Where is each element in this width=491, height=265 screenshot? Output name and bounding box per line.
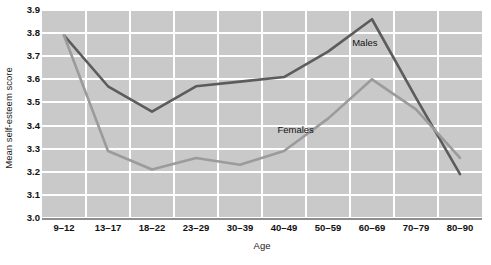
y-axis-tick-label: 3.4 [16,121,40,131]
x-axis-tick-labels: 9–1213–1718–2223–2930–3940–4950–5960–697… [42,222,482,236]
y-axis-tick-labels: 3.03.13.23.33.43.53.63.73.83.9 [16,10,40,218]
x-axis-tick-label: 30–39 [227,222,253,234]
y-axis-tick-label: 3.2 [16,167,40,177]
y-axis-tick-label: 3.8 [16,28,40,38]
y-axis-tick-label: 3.3 [16,144,40,154]
y-axis-tick-label: 3.5 [16,97,40,107]
x-axis-tick-label: 60–69 [359,222,385,234]
x-axis-tick-label: 13–17 [95,222,121,234]
plot-area: MalesFemales [42,10,482,218]
plot-lines [42,10,482,218]
y-axis-tick-label: 3.7 [16,51,40,61]
x-axis-tick-label: 23–29 [183,222,209,234]
x-axis-tick-label: 80–90 [447,222,473,234]
x-axis-tick-label: 9–12 [53,222,74,234]
series-line-males [64,19,460,174]
x-axis-tick-label: 50–59 [315,222,341,234]
y-axis-tick-label: 3.6 [16,74,40,84]
x-axis-tick-label: 18–22 [139,222,165,234]
series-line-females [64,35,460,169]
x-axis-title: Age [42,240,482,251]
y-axis-title: Mean self-esteem score [2,14,16,222]
series-annotation-females: Females [277,124,313,135]
x-axis-line [42,218,482,220]
y-axis-tick-label: 3.9 [16,5,40,15]
x-axis-tick-label: 70–79 [403,222,429,234]
y-axis-tick-label: 3.1 [16,190,40,200]
chart-container: Mean self-esteem score 3.03.13.23.33.43.… [0,0,491,265]
y-axis-tick-label: 3.0 [16,213,40,223]
series-annotation-males: Males [352,37,377,48]
x-axis-tick-label: 40–49 [271,222,297,234]
